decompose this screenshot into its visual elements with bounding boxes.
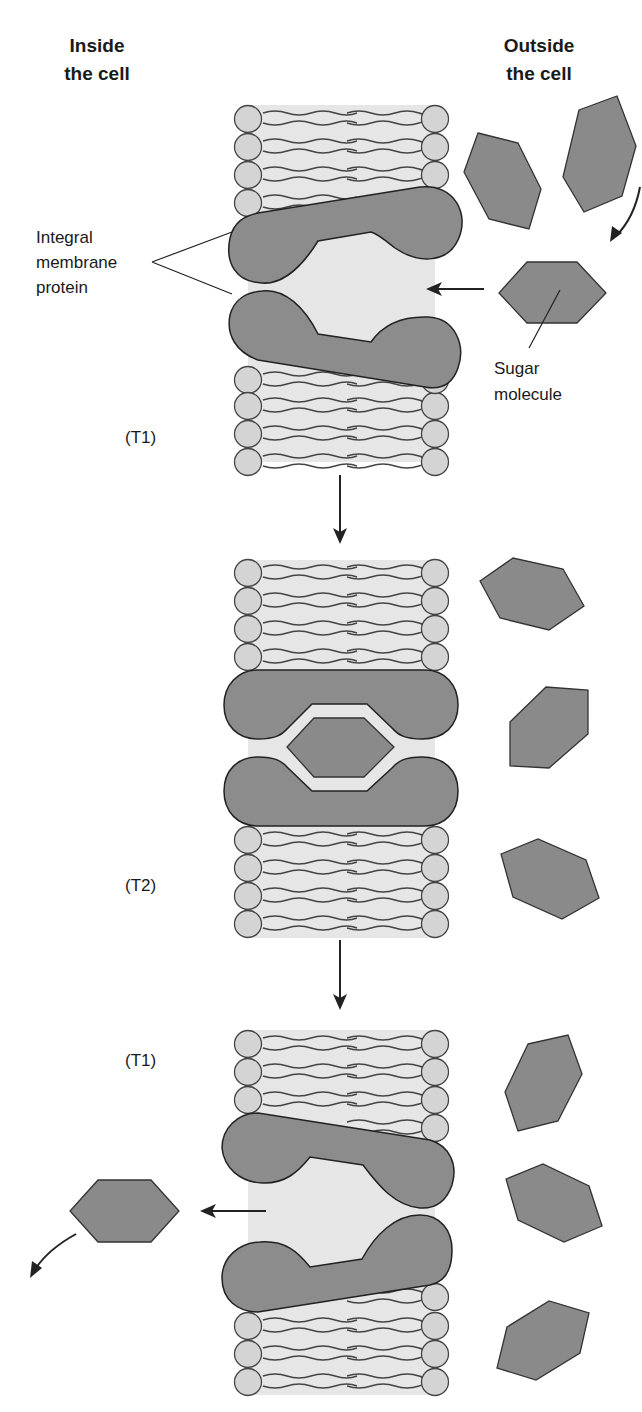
inside-header-line1: Inside [70, 35, 125, 56]
sugar-molecule [501, 839, 599, 919]
sugar-molecule-released [70, 1180, 179, 1242]
sugar-label-line1: Sugar [494, 359, 540, 378]
sugar-molecule [464, 133, 541, 229]
protein-label-line3: protein [36, 278, 88, 297]
sugar-molecule [510, 687, 588, 768]
sugar-molecule [506, 1164, 602, 1242]
sugar-molecule [505, 1035, 582, 1131]
outside-header-line1: Outside [504, 35, 575, 56]
stage-label: (T1) [125, 1051, 156, 1070]
sugar-molecule [563, 96, 636, 212]
sugar-molecule-approaching [499, 262, 606, 323]
inside-header-line2: the cell [64, 63, 129, 84]
stage-label: (T2) [125, 876, 156, 895]
sugar-molecule [497, 1301, 589, 1380]
outside-header-line2: the cell [506, 63, 571, 84]
stage-1-panel: Integral membrane protein Sugar molecule… [36, 96, 640, 476]
sugar-molecule [480, 558, 584, 630]
protein-label-line1: Integral [36, 228, 93, 247]
protein-label-line2: membrane [36, 253, 117, 272]
stage-3-panel: (T1) [30, 1030, 602, 1396]
membrane-core [248, 1030, 435, 1395]
membrane-transport-diagram: Inside the cell Outside the cell Integra… [0, 0, 642, 1412]
protein-leader-lines [152, 232, 232, 294]
stage-2-panel: (T2) [125, 558, 599, 938]
arrowhead-icon [610, 226, 622, 242]
stage-label: (T1) [125, 428, 156, 447]
sugar-label-line2: molecule [494, 385, 562, 404]
curved-arrow-icon [36, 1234, 76, 1268]
